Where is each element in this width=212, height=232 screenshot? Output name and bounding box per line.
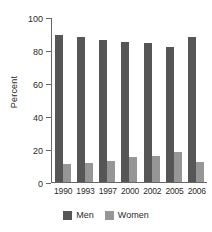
legend-swatch-women: [105, 211, 114, 220]
bar-group: [163, 18, 185, 182]
y-axis-tick: 60: [46, 84, 51, 85]
y-axis-tick: 100: [46, 18, 51, 19]
x-axis-tick-label-2000: 2000: [119, 186, 141, 196]
bar-men-1993: [77, 37, 85, 182]
x-axis-tick-label-2002: 2002: [141, 186, 163, 196]
y-axis-title: Percent: [7, 0, 21, 183]
y-axis-tick-label: 80: [33, 47, 43, 57]
bar-men-2005: [166, 47, 174, 182]
y-axis-tick-label: 0: [38, 179, 43, 189]
x-axis-tick-label-1993: 1993: [74, 186, 96, 196]
bar-women-2000: [129, 157, 137, 182]
bar-women-2002: [152, 156, 160, 182]
x-axis-tick-label-1997: 1997: [97, 186, 119, 196]
y-axis-title-text: Percent: [9, 75, 19, 107]
y-axis-tick: 0: [46, 183, 51, 184]
bar-group: [118, 18, 140, 182]
y-axis-tick: 20: [46, 150, 51, 151]
plot-area: 020406080100: [51, 18, 207, 183]
bar-group: [185, 18, 207, 182]
bar-men-2006: [188, 37, 196, 182]
legend-item-women[interactable]: Women: [105, 210, 149, 220]
bar-women-1993: [85, 163, 93, 182]
y-axis-tick-label: 100: [28, 14, 43, 24]
y-axis-tick: 80: [46, 51, 51, 52]
x-axis-tick-label-2006: 2006: [186, 186, 208, 196]
legend-swatch-men: [63, 211, 72, 220]
bar-group: [52, 18, 74, 182]
chart-legend: MenWomen: [0, 210, 212, 220]
bar-men-2000: [121, 42, 129, 182]
bar-group: [74, 18, 96, 182]
y-axis-tick-label: 40: [33, 113, 43, 123]
bar-men-1990: [55, 35, 63, 182]
legend-label-men: Men: [76, 210, 94, 220]
bar-women-1997: [107, 161, 115, 182]
y-axis-tick: 40: [46, 117, 51, 118]
x-axis-tick-label-1990: 1990: [52, 186, 74, 196]
y-axis-tick-label: 60: [33, 80, 43, 90]
y-axis-tick-label: 20: [33, 146, 43, 156]
bar-men-1997: [99, 40, 107, 182]
x-axis-spine: [51, 182, 207, 183]
x-axis-tick-labels: 1990199319972000200220052006: [52, 186, 208, 196]
legend-label-women: Women: [118, 210, 149, 220]
bar-men-2002: [144, 43, 152, 182]
bar-chart-figure: Percent 020406080100 1990199319972000200…: [0, 0, 212, 232]
bar-groups: [52, 18, 207, 182]
legend-item-men[interactable]: Men: [63, 210, 94, 220]
bar-group: [96, 18, 118, 182]
x-axis-tick-label-2005: 2005: [163, 186, 185, 196]
bar-women-1990: [63, 164, 71, 182]
bar-group: [141, 18, 163, 182]
bar-women-2005: [174, 152, 182, 182]
bar-women-2006: [196, 162, 204, 182]
